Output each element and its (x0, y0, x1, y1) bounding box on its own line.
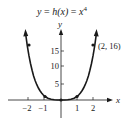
y-axis-arrow-icon (59, 29, 63, 35)
curve-left-arrow-icon (23, 29, 28, 37)
x-tick-labels: −2 −1 1 2 (22, 103, 95, 113)
point-annotation: (2, 16) (98, 41, 121, 51)
svg-text:10: 10 (51, 61, 60, 71)
y-axis-label: y (57, 19, 62, 29)
curve-right-arrow-icon (94, 29, 99, 37)
x-axis-label: x (115, 95, 120, 105)
graph-title: y = h(x) = x4 (36, 5, 87, 18)
svg-text:−1: −1 (38, 103, 47, 113)
function-graph: y = h(x) = x4 y x −2 −1 1 2 5 10 15 (0, 0, 131, 118)
y-tick-labels: 5 10 15 (51, 46, 60, 89)
svg-text:5: 5 (55, 79, 59, 89)
svg-text:15: 15 (51, 46, 60, 56)
svg-text:−2: −2 (22, 103, 31, 113)
svg-text:1: 1 (75, 103, 79, 113)
svg-text:2: 2 (91, 103, 95, 113)
x-axis-arrow-icon (107, 98, 113, 102)
y-ticks (61, 51, 64, 84)
